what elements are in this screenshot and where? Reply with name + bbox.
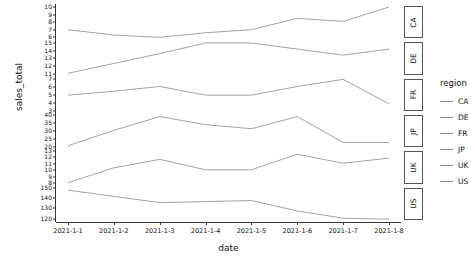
y-tick-label: 12 xyxy=(44,63,52,69)
plot-area-ca xyxy=(56,4,401,40)
data-line xyxy=(68,7,389,37)
legend-title: region xyxy=(440,78,475,88)
legend-line-swatch xyxy=(440,117,453,118)
y-tick-label: 5 xyxy=(48,92,52,98)
x-axis-ticks: 2021-1-12021-1-22021-1-32021-1-42021-1-5… xyxy=(56,222,401,244)
x-tick-mark xyxy=(251,222,252,225)
data-line xyxy=(68,155,389,184)
x-tick-label: 2021-1-2 xyxy=(99,227,129,235)
legend-line-swatch xyxy=(440,101,453,102)
y-axis-ticks-fr: 76543 xyxy=(2,77,56,113)
y-tick-label: 150 xyxy=(41,185,52,191)
y-axis-ticks-ca: 109876 xyxy=(2,4,56,40)
legend-item-jp[interactable]: JP xyxy=(440,141,475,157)
legend-item-label: CA xyxy=(458,97,468,106)
data-line xyxy=(68,43,389,73)
y-tick-label: 10 xyxy=(44,4,52,10)
legend-item-label: DE xyxy=(458,113,469,122)
x-tick-label: 2021-1-6 xyxy=(283,227,313,235)
y-axis-ticks-de: 1514131211 xyxy=(2,40,56,76)
y-axis-ticks-us: 150140130120 xyxy=(2,186,56,222)
legend-item-us[interactable]: US xyxy=(440,173,475,189)
legend-item-label: JP xyxy=(458,145,465,154)
chart-root: sales_total 109876CA1514131211DE76543FR4… xyxy=(0,0,475,259)
legend-item-ca[interactable]: CA xyxy=(440,93,475,109)
x-tick-mark xyxy=(343,222,344,225)
y-tick-label: 130 xyxy=(41,205,52,211)
legend-item-label: FR xyxy=(458,129,468,138)
y-tick-label: 30 xyxy=(44,128,52,134)
facet-strip-label: DE xyxy=(409,53,418,64)
facet-strip-jp: JP xyxy=(404,115,423,147)
legend-item-fr[interactable]: FR xyxy=(440,125,475,141)
facet-panel-fr: 76543FR xyxy=(56,77,401,113)
y-tick-label: 13 xyxy=(44,55,52,61)
x-tick-label: 2021-1-7 xyxy=(328,227,358,235)
facet-strip-label: JP xyxy=(409,128,418,135)
facet-strip-label: US xyxy=(409,199,418,209)
y-tick-label: 35 xyxy=(44,120,52,126)
legend-line-swatch xyxy=(440,149,453,150)
x-tick-label: 2021-1-4 xyxy=(191,227,221,235)
x-tick-mark xyxy=(114,222,115,225)
legend-item-label: UK xyxy=(458,161,468,170)
facet-panel-uk: 1312111098UK xyxy=(56,149,401,185)
x-tick-mark xyxy=(160,222,161,225)
y-tick-label: 40 xyxy=(44,112,52,118)
y-tick-label: 120 xyxy=(41,216,52,222)
facet-strip-de: DE xyxy=(404,42,423,74)
facet-grid: 109876CA1514131211DE76543FR4035302520JP1… xyxy=(56,4,401,222)
x-tick-mark xyxy=(297,222,298,225)
legend-line-swatch xyxy=(440,133,453,134)
y-tick-label: 15 xyxy=(44,40,52,46)
x-tick-label: 2021-1-8 xyxy=(374,227,404,235)
x-axis-title: date xyxy=(56,243,401,253)
y-tick-label: 8 xyxy=(48,19,52,25)
legend-line-swatch xyxy=(440,181,453,182)
data-line xyxy=(68,190,389,219)
facet-strip-label: CA xyxy=(409,17,418,27)
plot-area-fr xyxy=(56,77,401,113)
legend-item-label: US xyxy=(458,177,468,186)
x-tick-mark xyxy=(68,222,69,225)
facet-panel-jp: 4035302520JP xyxy=(56,113,401,149)
facet-panel-de: 1514131211DE xyxy=(56,40,401,76)
plot-area-uk xyxy=(56,149,401,185)
legend-line-swatch xyxy=(440,165,453,166)
x-tick-label: 2021-1-5 xyxy=(237,227,267,235)
legend: region CADEFRJPUKUS xyxy=(440,78,475,189)
x-tick-label: 2021-1-3 xyxy=(145,227,175,235)
x-tick-mark xyxy=(389,222,390,225)
plot-area-de xyxy=(56,40,401,76)
plot-area-jp xyxy=(56,113,401,149)
data-line xyxy=(68,79,389,103)
y-axis-ticks-uk: 1312111098 xyxy=(2,149,56,185)
y-tick-label: 140 xyxy=(41,195,52,201)
facet-strip-ca: CA xyxy=(404,6,423,38)
y-tick-label: 25 xyxy=(44,136,52,142)
facet-panel-ca: 109876CA xyxy=(56,4,401,40)
x-tick-label: 2021-1-1 xyxy=(53,227,83,235)
y-tick-label: 6 xyxy=(48,84,52,90)
facet-strip-label: UK xyxy=(409,162,418,172)
y-axis-ticks-jp: 4035302520 xyxy=(2,113,56,149)
y-tick-label: 4 xyxy=(48,100,52,106)
facet-strip-us: US xyxy=(404,188,423,220)
facet-panel-us: 150140130120US xyxy=(56,186,401,222)
y-tick-label: 7 xyxy=(48,76,52,82)
legend-item-de[interactable]: DE xyxy=(440,109,475,125)
y-tick-label: 9 xyxy=(48,12,52,18)
facet-strip-label: FR xyxy=(409,90,418,100)
facet-strip-fr: FR xyxy=(404,79,423,111)
facet-strip-uk: UK xyxy=(404,151,423,183)
legend-item-uk[interactable]: UK xyxy=(440,157,475,173)
y-tick-label: 14 xyxy=(44,48,52,54)
data-line xyxy=(68,117,389,146)
plot-area-us xyxy=(56,186,401,222)
x-tick-mark xyxy=(206,222,207,225)
y-tick-label: 7 xyxy=(48,27,52,33)
legend-items: CADEFRJPUKUS xyxy=(440,93,475,189)
